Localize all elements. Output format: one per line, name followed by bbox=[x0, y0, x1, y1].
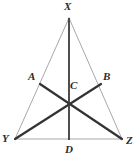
vertex-label-a: A bbox=[28, 71, 35, 82]
segment-cevian-YB bbox=[15, 84, 101, 139]
geometry-figure: X A B C Y Z D bbox=[0, 0, 139, 162]
vertex-label-b: B bbox=[103, 71, 110, 82]
vertex-label-d: D bbox=[65, 144, 73, 155]
vertex-label-c: C bbox=[70, 80, 77, 91]
vertex-label-z: Z bbox=[126, 135, 133, 146]
vertex-label-y: Y bbox=[2, 133, 9, 144]
vertex-label-x: X bbox=[64, 1, 71, 12]
